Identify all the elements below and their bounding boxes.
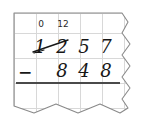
minus-operator-icon: − [17,64,33,81]
subtrahend-digit-ones: 8 [96,62,116,80]
minuend-digit-ones: 7 [96,38,116,56]
worksheet-image: 0 12 1 2 5 7 − 8 4 8 [0,0,147,129]
handwriting-layer: 0 12 1 2 5 7 − 8 4 8 [0,0,147,129]
regroup-mark-12: 12 [52,20,74,29]
regroup-mark-0: 0 [30,20,52,29]
answer-rule-line [16,82,120,84]
subtrahend-digit-hundreds: 8 [52,62,72,80]
torn-paper-sheet: 0 12 1 2 5 7 − 8 4 8 [0,0,147,129]
minuend-digit-tens: 5 [74,38,94,56]
minuend-digit-thousands: 1 [30,38,50,56]
subtrahend-digit-tens: 4 [74,62,94,80]
minuend-digit-hundreds: 2 [52,38,72,56]
